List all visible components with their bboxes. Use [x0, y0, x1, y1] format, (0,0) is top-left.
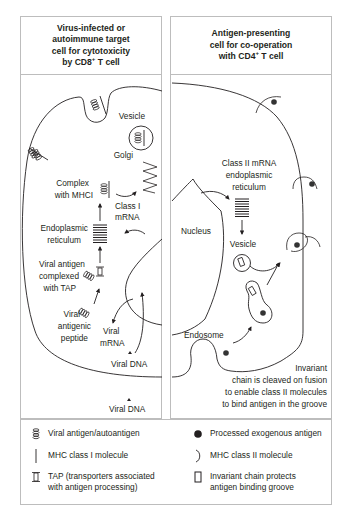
label-class2-3: reticulum — [232, 182, 266, 192]
label-vesicle: Vesicle — [230, 239, 257, 249]
label-viral-mrna-1: Viral — [103, 326, 120, 336]
label-invariant-3: to enable class II molecules — [225, 387, 327, 397]
label-class1-mrna-2: mRNA — [115, 212, 140, 222]
tap-icon — [29, 471, 43, 483]
coil-icon — [29, 428, 43, 440]
legend-item-antigen: Viral antigen/autoantigen — [29, 428, 140, 440]
label-er-1: Endoplasmic — [40, 223, 88, 233]
tap-icon — [96, 267, 104, 276]
dot-icon — [191, 428, 205, 440]
legend-text-mhc2: MHC class II molecule — [210, 450, 293, 461]
label-invariant-2: chain is cleaved on fusion — [232, 375, 327, 385]
label-class2-1: Class II mRNA — [222, 158, 277, 168]
label-class1-mrna-1: Class I — [115, 201, 140, 211]
legend-text-antigen: Viral antigen/autoantigen — [48, 428, 140, 439]
er-stack — [93, 225, 107, 243]
rect-icon — [191, 471, 205, 483]
legend-text-tap: TAP (transporters associated with antige… — [48, 471, 155, 493]
label-er-2: reticulum — [47, 235, 81, 245]
label-peptide-3: peptide — [61, 333, 89, 343]
label-endosome: Endosome — [184, 330, 224, 340]
label-peptide-1: Viral — [64, 309, 81, 319]
golgi — [143, 162, 157, 193]
label-complex-2: with MHCI — [54, 190, 93, 200]
er-stack — [235, 199, 249, 217]
panel-cd4-apc: Antigen-presenting cell for co-operation… — [170, 16, 332, 419]
label-viral-mrna-2: mRNA — [100, 338, 125, 348]
label-invariant-4: to bind antigen in the groove — [222, 399, 327, 409]
legend-item-tap: TAP (transporters associated with antige… — [29, 471, 155, 493]
left-cell-diagram: Vesicle Golgi Complex with MHCI Class I … — [21, 17, 163, 420]
label-vesicle: Vesicle — [119, 111, 146, 121]
label-tap-2: complexed — [39, 271, 80, 281]
right-cell-diagram: Class II mRNA endoplasmic reticulum Nucl… — [171, 17, 333, 420]
label-peptide-2: antigenic — [58, 321, 91, 331]
legend-text-exogenous: Processed exogenous antigen — [210, 428, 322, 439]
label-tap-1: Viral antigen — [39, 259, 85, 269]
legend-text-mhc1: MHC class I molecule — [48, 450, 128, 461]
label-complex-1: Complex — [56, 178, 90, 188]
bracket-icon — [191, 450, 205, 462]
label-invariant-1: Invariant — [295, 363, 328, 373]
legend-item-mhc2: MHC class II molecule — [191, 450, 293, 462]
legend: Viral antigen/autoantigen Processed exog… — [20, 419, 332, 505]
label-viral-dna-outside: Viral DNA — [109, 404, 146, 414]
panel-cd8-target-cell: Virus-infected or autoimmune target cell… — [20, 16, 162, 419]
label-tap-3: with TAP — [43, 283, 77, 293]
label-viral-dna-inside: Viral DNA — [111, 359, 148, 369]
legend-item-invariant: Invariant chain protects antigen binding… — [191, 471, 296, 493]
label-nucleus: Nucleus — [181, 226, 211, 236]
label-golgi: Golgi — [114, 150, 134, 160]
nucleus-boundary — [172, 179, 224, 335]
label-class2-2: endoplasmic — [226, 170, 273, 180]
legend-text-invariant: Invariant chain protects antigen binding… — [210, 471, 296, 493]
legend-item-exogenous: Processed exogenous antigen — [191, 428, 322, 440]
bar-icon — [29, 450, 43, 462]
legend-item-mhc1: MHC class I molecule — [29, 450, 128, 462]
